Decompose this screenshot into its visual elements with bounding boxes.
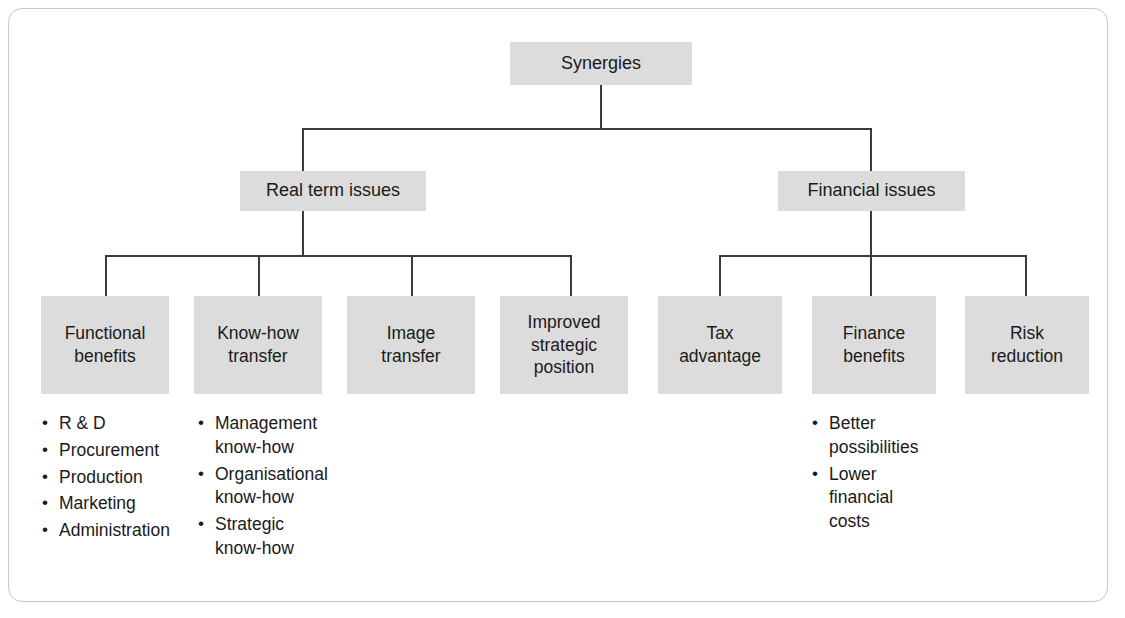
list-item: Production [42,466,207,490]
connector-to-tax-advantage [719,255,721,297]
connector-to-finance-benefits [870,255,872,297]
node-financial-issues[interactable]: Financial issues [778,171,965,211]
connector-to-improved-strategic-position [570,255,572,297]
bullet-list-knowhow: Management know-how Organisational know-… [198,412,358,561]
list-item: Management know-how [198,412,358,460]
bullet-list-finance: Better possibilities Lower financial cos… [812,412,962,534]
connector-level3-left-bus [105,255,572,257]
bullet-list-functional: R & D Procurement Production Marketing A… [42,412,207,543]
list-item: Strategic know-how [198,513,358,561]
node-functional-benefits[interactable]: Functional benefits [41,296,169,394]
bullets-functional-benefits: R & D Procurement Production Marketing A… [42,412,207,546]
connector-to-know-how-transfer [258,255,260,297]
node-real-term-issues[interactable]: Real term issues [240,171,426,211]
node-know-how-transfer[interactable]: Know-how transfer [194,296,322,394]
bullets-finance-benefits: Better possibilities Lower financial cos… [812,412,962,537]
list-item: Better possibilities [812,412,962,460]
bullets-know-how-transfer: Management know-how Organisational know-… [198,412,358,564]
connector-to-risk-reduction [1025,255,1027,297]
connector-to-real-term-issues [302,128,304,172]
connector-to-image-transfer [411,255,413,297]
connector-to-financial-issues [870,128,872,172]
node-tax-advantage[interactable]: Tax advantage [658,296,782,394]
connector-root-stem [600,84,602,129]
node-improved-strategic-position[interactable]: Improved strategic position [500,296,628,394]
node-finance-benefits[interactable]: Finance benefits [812,296,936,394]
node-synergies[interactable]: Synergies [510,42,692,85]
diagram-canvas: Synergies Real term issues Financial iss… [0,0,1125,618]
list-item: Lower financial costs [812,463,962,534]
connector-financial-stem [870,210,872,256]
node-risk-reduction[interactable]: Risk reduction [965,296,1089,394]
list-item: Marketing [42,492,207,516]
connector-level3-right-bus [719,255,1027,257]
list-item: Procurement [42,439,207,463]
list-item: Organisational know-how [198,463,358,511]
node-image-transfer[interactable]: Image transfer [347,296,475,394]
connector-real-term-stem [302,210,304,256]
list-item: Administration [42,519,207,543]
connector-level2-bus [302,128,872,130]
connector-to-functional-benefits [105,255,107,297]
list-item: R & D [42,412,207,436]
